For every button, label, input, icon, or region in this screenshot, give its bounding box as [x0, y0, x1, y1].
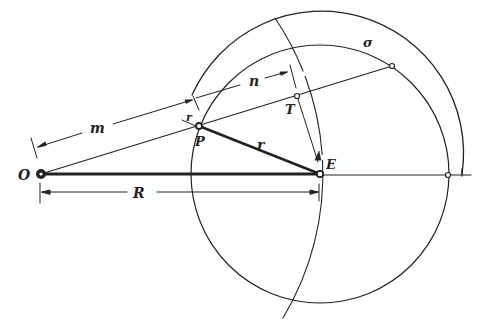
sigma-arc	[192, 11, 464, 174]
dimension-n-tick-right	[290, 65, 296, 88]
dimension-m-tick-left	[31, 138, 37, 158]
label-e: E	[325, 157, 337, 172]
label-p: P	[194, 134, 206, 149]
label-t: T	[285, 102, 296, 117]
label-segment-r-small: r	[257, 137, 266, 153]
radius-r-arc	[275, 18, 323, 318]
arrow-r-left	[42, 190, 50, 194]
label-sigma: σ	[363, 35, 373, 50]
point-o-inner	[39, 172, 42, 175]
arrow-r-right	[310, 190, 318, 194]
point-upper-intersection	[390, 64, 395, 69]
label-segment-n: n	[249, 73, 259, 89]
arrow-n-right	[280, 72, 287, 75]
point-e-dot	[317, 171, 323, 177]
dimension-n-line-a	[196, 85, 240, 98]
point-right-intersection	[446, 173, 451, 178]
label-segment-m: m	[90, 120, 105, 136]
arrow-m-right	[185, 100, 192, 103]
label-small-r-near-p: r	[186, 111, 193, 124]
point-p-dot	[196, 123, 202, 129]
dimension-m-line-b	[113, 100, 192, 124]
arrow-m-left	[38, 142, 46, 147]
point-t-dot	[295, 94, 300, 99]
label-o: O	[18, 167, 31, 183]
label-segment-r-big: R	[132, 185, 145, 201]
diagram-canvas: O E P T R r m n r σ	[0, 0, 485, 330]
